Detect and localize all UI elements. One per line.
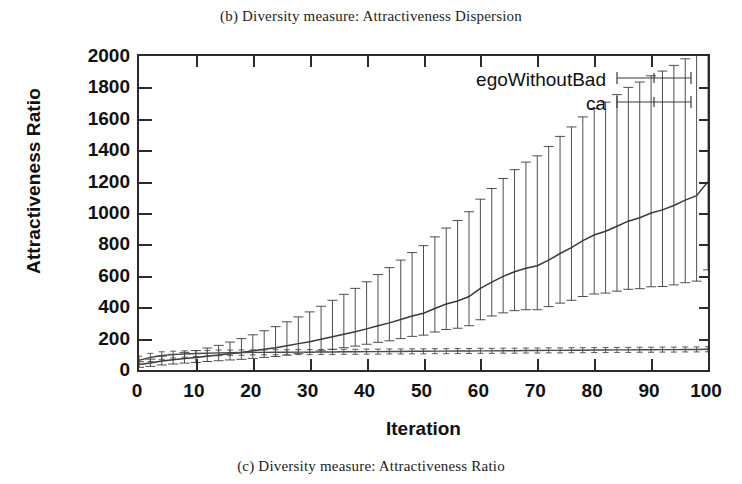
x-axis-tick-top	[480, 56, 482, 67]
y-tick-label: 1000	[60, 202, 130, 224]
x-axis-tick	[253, 359, 255, 370]
error-bar	[419, 246, 429, 335]
x-axis-tick-labels: 0102030405060708090100	[137, 380, 710, 406]
error-bar	[566, 127, 576, 300]
x-axis-tick	[537, 359, 539, 370]
figure-caption-bottom: (c) Diversity measure: Attractiveness Ra…	[0, 458, 742, 475]
error-bar	[236, 339, 246, 360]
error-bar	[350, 288, 360, 346]
y-tick-label: 0	[60, 359, 130, 381]
x-axis-tick-top	[594, 56, 596, 67]
series-egoWithoutBad	[139, 56, 708, 367]
error-bar	[521, 162, 531, 310]
error-bar	[362, 282, 372, 344]
y-tick-label: 200	[60, 328, 130, 350]
error-bar	[441, 228, 451, 329]
y-axis-tick	[139, 276, 152, 278]
y-axis-tick-right	[699, 244, 708, 246]
x-tick-label: 30	[278, 380, 338, 402]
error-bar	[305, 312, 315, 353]
x-tick-label: 20	[221, 380, 281, 402]
error-bar	[555, 136, 565, 303]
y-tick-label: 1200	[60, 171, 130, 193]
y-axis-tick	[139, 87, 152, 89]
y-axis-tick-right	[699, 307, 708, 309]
x-axis-tick	[480, 359, 482, 370]
x-axis-tick-top	[424, 56, 426, 67]
error-bar	[635, 82, 645, 289]
error-bar	[339, 294, 349, 347]
error-bar	[316, 306, 326, 351]
x-axis-tick-top	[537, 56, 539, 67]
x-tick-label: 50	[392, 380, 452, 402]
y-axis-tick	[139, 213, 152, 215]
y-axis-tick-right	[699, 213, 708, 215]
error-bar	[373, 275, 383, 343]
error-bar	[384, 268, 394, 341]
error-bar	[657, 71, 667, 286]
y-tick-label: 1600	[60, 108, 130, 130]
error-bar	[498, 178, 508, 312]
chart-figure: Attractiveness Ratio Iteration 020040060…	[0, 30, 742, 450]
y-axis-tick-right	[699, 150, 708, 152]
y-axis-tick-right	[699, 87, 708, 89]
x-tick-label: 40	[335, 380, 395, 402]
x-tick-label: 60	[448, 380, 508, 402]
error-bar	[589, 108, 599, 294]
y-axis-tick	[139, 339, 152, 341]
y-axis-tick	[139, 182, 152, 184]
x-axis-tick	[196, 359, 198, 370]
y-tick-label: 600	[60, 265, 130, 287]
y-axis-tick-right	[699, 276, 708, 278]
x-axis-tick-top	[310, 56, 312, 67]
error-bar	[544, 146, 554, 306]
figure-caption-top: (b) Diversity measure: Attractiveness Di…	[0, 8, 742, 25]
y-axis-tick	[139, 307, 152, 309]
y-tick-label: 800	[60, 233, 130, 255]
error-bar	[475, 199, 485, 320]
y-tick-label: 1800	[60, 76, 130, 98]
error-bar	[327, 300, 337, 349]
x-axis-tick	[594, 359, 596, 370]
x-axis-title: Iteration	[137, 418, 710, 440]
y-axis-title: Attractiveness Ratio	[23, 61, 45, 301]
error-bar	[532, 156, 542, 310]
error-bar	[293, 317, 303, 354]
x-axis-tick	[651, 359, 653, 370]
error-bar	[453, 221, 463, 329]
x-tick-label: 90	[619, 380, 679, 402]
x-axis-tick-top	[253, 56, 255, 67]
error-bar	[612, 95, 622, 292]
series-plot	[139, 56, 708, 370]
x-axis-tick-top	[367, 56, 369, 67]
error-bar	[407, 253, 417, 337]
x-tick-label: 0	[107, 380, 167, 402]
y-axis-tick-labels: 0200400600800100012001400160018002000	[54, 54, 130, 372]
y-axis-tick	[139, 119, 152, 121]
y-tick-label: 400	[60, 296, 130, 318]
x-axis-tick	[310, 359, 312, 370]
x-axis-tick	[424, 359, 426, 370]
y-tick-label: 1400	[60, 139, 130, 161]
plot-area	[137, 54, 710, 372]
error-bar	[601, 102, 611, 293]
error-bar	[669, 65, 679, 284]
error-bar	[578, 117, 588, 297]
error-bar	[646, 76, 656, 287]
y-axis-tick-right	[699, 182, 708, 184]
y-axis-tick-right	[699, 339, 708, 341]
error-bar	[396, 260, 406, 339]
error-bar	[487, 189, 497, 316]
y-axis-tick-right	[699, 119, 708, 121]
error-bar	[623, 87, 633, 289]
y-tick-label: 2000	[60, 45, 130, 67]
y-axis-tick	[139, 244, 152, 246]
y-axis-tick	[139, 150, 152, 152]
x-tick-label: 100	[676, 380, 736, 402]
error-bar	[680, 59, 690, 283]
x-tick-label: 80	[562, 380, 622, 402]
x-tick-label: 10	[164, 380, 224, 402]
error-bar	[464, 212, 474, 326]
error-bar	[692, 56, 702, 281]
x-axis-tick-top	[196, 56, 198, 67]
